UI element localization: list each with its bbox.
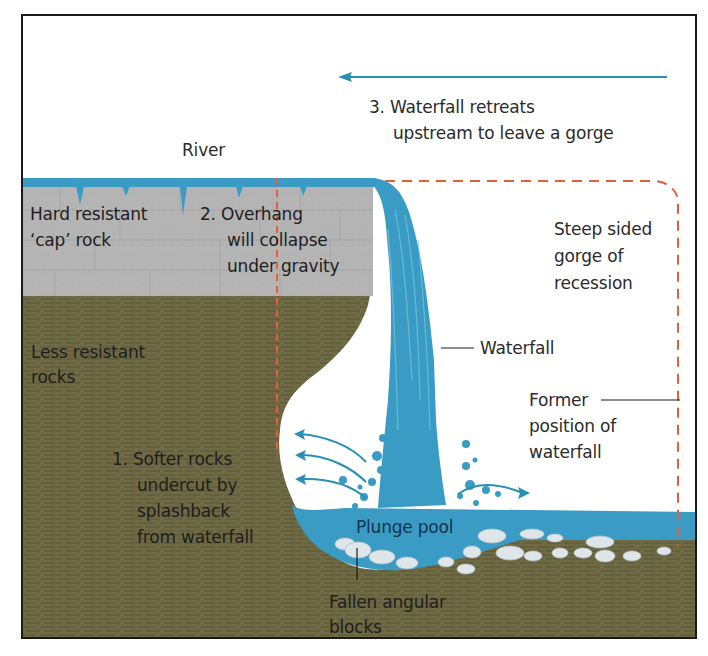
label-less-resistant-2: rocks bbox=[31, 366, 75, 388]
label-overhang-2: will collapse bbox=[227, 229, 328, 251]
label-gorge-3: recession bbox=[554, 272, 633, 294]
label-fallen-2: blocks bbox=[329, 616, 382, 638]
label-softer-1: 1. Softer rocks bbox=[112, 448, 232, 470]
label-softer-2: undercut by bbox=[137, 474, 237, 496]
label-plunge-pool: Plunge pool bbox=[356, 516, 453, 538]
label-less-resistant-1: Less resistant bbox=[31, 341, 145, 363]
label-softer-3: splashback bbox=[137, 500, 230, 522]
label-gorge-1: Steep sided bbox=[554, 218, 652, 240]
label-fallen-1: Fallen angular bbox=[329, 591, 446, 613]
label-former-1: Former bbox=[529, 389, 588, 411]
label-softer-4: from waterfall bbox=[137, 526, 253, 548]
label-former-2: position of bbox=[529, 415, 616, 437]
label-cap-rock-1: Hard resistant bbox=[30, 203, 147, 225]
label-retreat-1: 3. Waterfall retreats bbox=[369, 96, 535, 118]
label-gorge-2: gorge of bbox=[554, 245, 623, 267]
label-cap-rock-2: ‘cap’ rock bbox=[30, 229, 111, 251]
label-river: River bbox=[182, 139, 225, 161]
label-retreat-2: upstream to leave a gorge bbox=[393, 122, 614, 144]
waterfall-diagram: River 3. Waterfall retreats upstream to … bbox=[0, 0, 708, 656]
label-waterfall: Waterfall bbox=[480, 337, 554, 359]
label-overhang-1: 2. Overhang bbox=[200, 203, 303, 225]
label-overhang-3: under gravity bbox=[227, 255, 339, 277]
label-former-3: waterfall bbox=[529, 441, 601, 463]
diagram-canvas bbox=[0, 0, 708, 656]
